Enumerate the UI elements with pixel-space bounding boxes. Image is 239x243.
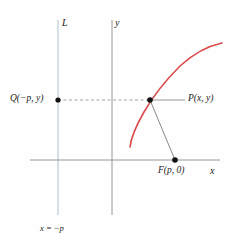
point-p-label: P(x, y) — [188, 94, 213, 104]
directrix-name-label: L — [62, 18, 68, 28]
point-q — [55, 97, 60, 102]
figure-canvas — [0, 0, 239, 243]
point-f — [172, 157, 178, 163]
x-axis-label: x — [210, 166, 214, 176]
parabola-figure: L y x Q(−p, y) P(x, y) F(p, 0) x = −p — [0, 0, 239, 243]
directrix-equation-label: x = −p — [40, 224, 64, 233]
segment-p-to-f — [150, 100, 175, 160]
point-q-label: Q(−p, y) — [10, 94, 43, 104]
y-axis-label: y — [115, 18, 119, 28]
point-f-label: F(p, 0) — [158, 166, 184, 176]
point-p — [147, 97, 153, 103]
